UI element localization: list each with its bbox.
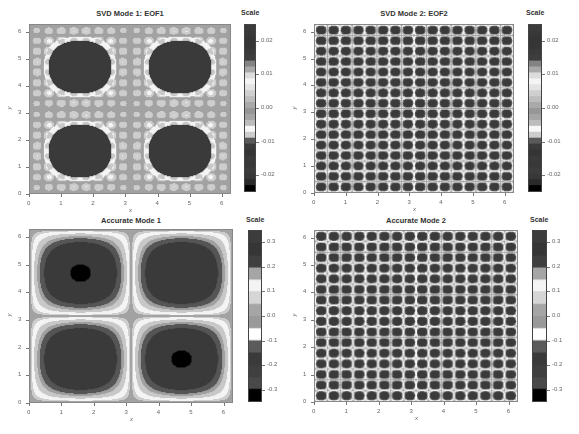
x-tick-label: 0 xyxy=(27,409,30,415)
x-tick-mark xyxy=(505,193,506,196)
y-axis-label: y xyxy=(6,107,12,110)
colorbar-canvas xyxy=(249,231,261,401)
colorbar-tick-mark xyxy=(542,108,545,109)
y-tick-mark xyxy=(26,194,29,195)
x-tick-label: 6 xyxy=(507,408,510,414)
x-tick-mark xyxy=(29,403,30,406)
y-tick-label: 4 xyxy=(303,288,306,294)
x-tick-label: 0 xyxy=(312,199,315,205)
x-tick-label: 2 xyxy=(376,199,379,205)
colorbar-tick-label: 0.01 xyxy=(547,70,559,76)
colorbar xyxy=(532,230,547,402)
y-tick-mark xyxy=(311,32,314,33)
colorbar-tick-label: 0.0 xyxy=(267,312,275,318)
x-tick-mark xyxy=(314,193,315,196)
y-tick-mark xyxy=(311,193,314,194)
x-tick-label: 5 xyxy=(189,409,192,415)
x-tick-label: 2 xyxy=(377,408,380,414)
x-tick-label: 4 xyxy=(157,409,160,415)
colorbar-tick-label: 0.02 xyxy=(547,37,559,43)
y-tick-mark xyxy=(311,320,314,321)
x-tick-mark xyxy=(346,402,347,405)
y-tick-label: 5 xyxy=(303,55,306,61)
colorbar-tick-mark xyxy=(262,291,265,292)
x-axis-label: x xyxy=(415,415,418,421)
y-tick-mark xyxy=(26,167,29,168)
x-tick-label: 3 xyxy=(124,409,127,415)
heatmap-canvas xyxy=(30,230,232,402)
x-tick-label: 6 xyxy=(222,409,225,415)
colorbar-tick-label: 0.3 xyxy=(267,238,275,244)
x-tick-label: 3 xyxy=(409,408,412,414)
x-tick-mark xyxy=(94,403,95,406)
colorbar-canvas xyxy=(245,25,255,191)
y-tick-mark xyxy=(26,59,29,60)
colorbar-tick-label: 0.02 xyxy=(261,37,273,43)
x-tick-mark xyxy=(441,193,442,196)
colorbar-tick-label: 0.2 xyxy=(267,263,275,269)
x-tick-mark xyxy=(473,193,474,196)
x-tick-label: 2 xyxy=(91,200,94,206)
x-tick-label: 6 xyxy=(220,200,223,206)
x-axis-label: x xyxy=(129,207,132,213)
y-tick-label: 3 xyxy=(18,109,21,115)
x-tick-mark xyxy=(476,402,477,405)
y-tick-label: 0 xyxy=(18,190,21,196)
x-tick-mark xyxy=(125,194,126,197)
chart-title: SVD Mode 2: EOF2 xyxy=(314,9,514,18)
colorbar-title: Scale xyxy=(530,216,548,223)
y-tick-label: 0 xyxy=(303,189,306,195)
colorbar-tick-label: 0.2 xyxy=(552,263,560,269)
x-tick-mark xyxy=(314,402,315,405)
x-tick-mark xyxy=(29,194,30,197)
x-tick-mark xyxy=(444,402,445,405)
chart-title: Accurate Mode 2 xyxy=(314,216,518,225)
colorbar-tick-label: 0.1 xyxy=(267,287,275,293)
heatmap-canvas xyxy=(315,25,513,192)
x-tick-mark xyxy=(409,193,410,196)
x-tick-label: 5 xyxy=(188,200,191,206)
colorbar-tick-label: 0.0 xyxy=(552,312,560,318)
colorbar-tick-mark xyxy=(542,175,545,176)
y-tick-mark xyxy=(26,113,29,114)
colorbar-tick-label: 0.00 xyxy=(261,104,273,110)
colorbar-tick-label: -0.02 xyxy=(261,171,275,177)
y-tick-label: 2 xyxy=(303,135,306,141)
x-tick-mark xyxy=(126,403,127,406)
colorbar-tick-mark xyxy=(547,267,550,268)
x-tick-label: 1 xyxy=(344,408,347,414)
colorbar-tick-mark xyxy=(262,341,265,342)
x-tick-mark xyxy=(411,402,412,405)
y-tick-mark xyxy=(26,237,29,238)
y-tick-mark xyxy=(311,166,314,167)
colorbar-tick-label: -0.3 xyxy=(552,386,562,392)
y-tick-mark xyxy=(26,348,29,349)
x-tick-label: 4 xyxy=(442,408,445,414)
x-tick-label: 2 xyxy=(92,409,95,415)
y-tick-label: 5 xyxy=(18,261,21,267)
y-tick-mark xyxy=(26,140,29,141)
y-tick-mark xyxy=(26,265,29,266)
colorbar-tick-mark xyxy=(547,291,550,292)
y-tick-label: 1 xyxy=(18,163,21,169)
y-tick-label: 3 xyxy=(303,108,306,114)
y-tick-label: 2 xyxy=(303,343,306,349)
y-tick-label: 3 xyxy=(18,316,21,322)
colorbar-tick-label: 0.1 xyxy=(552,287,560,293)
x-tick-label: 3 xyxy=(407,199,410,205)
colorbar-tick-mark xyxy=(256,41,259,42)
colorbar-tick-mark xyxy=(256,175,259,176)
y-tick-label: 5 xyxy=(18,55,21,61)
x-axis-label: x xyxy=(413,206,416,212)
colorbar-title: Scale xyxy=(246,216,264,223)
y-tick-label: 2 xyxy=(18,344,21,350)
y-axis-label: y xyxy=(291,314,297,317)
colorbar-tick-label: -0.02 xyxy=(547,171,561,177)
y-tick-mark xyxy=(311,112,314,113)
y-tick-label: 6 xyxy=(303,28,306,34)
y-tick-mark xyxy=(26,86,29,87)
y-tick-label: 4 xyxy=(303,81,306,87)
y-tick-label: 3 xyxy=(303,316,306,322)
x-tick-mark xyxy=(158,194,159,197)
y-tick-mark xyxy=(26,32,29,33)
